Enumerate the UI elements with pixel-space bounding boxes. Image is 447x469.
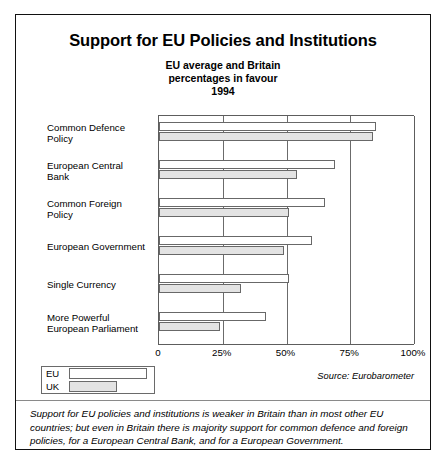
gridline-100	[414, 116, 415, 344]
bar-eu	[159, 236, 312, 245]
subtitle-line-3: 1994	[16, 85, 430, 98]
legend: EU UK	[41, 366, 155, 394]
category-label-line: Bank	[47, 171, 155, 183]
category-label-line: Policy	[47, 133, 155, 145]
caption-divider	[16, 400, 430, 401]
bar-group	[159, 309, 414, 336]
bar-eu	[159, 274, 289, 283]
bar-group	[159, 119, 414, 146]
legend-label-eu: EU	[46, 367, 59, 380]
bar-uk	[159, 208, 289, 217]
xtick-label-75: 75%	[329, 347, 369, 358]
category-label-line: Policy	[47, 209, 155, 221]
category-label-european-central-bank: European CentralBank	[47, 160, 155, 183]
bar-uk	[159, 246, 284, 255]
category-label-line: European Government	[47, 241, 155, 253]
category-label-line: European Central	[47, 160, 155, 172]
legend-swatch-uk	[69, 381, 117, 392]
chart-subtitle: EU average and Britain percentages in fa…	[16, 59, 430, 98]
category-label-common-defence-policy: Common DefencePolicy	[47, 122, 155, 145]
bar-uk	[159, 322, 220, 331]
xtick-label-0: 0	[138, 347, 178, 358]
plot-area	[158, 115, 414, 345]
bar-eu	[159, 122, 376, 131]
source-note: Source: Eurobarometer	[317, 371, 414, 381]
category-label-single-currency: Single Currency	[47, 279, 155, 291]
xtick-label-100: 100%	[393, 347, 433, 358]
chart-title: Support for EU Policies and Institutions	[16, 31, 430, 50]
bar-group	[159, 157, 414, 184]
category-label-line: More Powerful	[47, 312, 155, 324]
bar-eu	[159, 312, 266, 321]
legend-label-uk: UK	[46, 380, 59, 393]
category-label-line: Common Defence	[47, 122, 155, 134]
bar-group	[159, 195, 414, 222]
bar-eu	[159, 198, 325, 207]
figure-caption: Support for EU policies and institutions…	[30, 407, 417, 448]
category-label-more-powerful-european-parliament: More PowerfulEuropean Parliament	[47, 312, 155, 335]
legend-swatch-eu	[69, 368, 147, 379]
category-label-line: Common Foreign	[47, 198, 155, 210]
legend-item-uk: UK	[42, 380, 154, 393]
bar-group	[159, 233, 414, 260]
figure-panel: Support for EU Policies and Institutions…	[15, 14, 431, 450]
bar-uk	[159, 170, 297, 179]
bar-eu	[159, 160, 335, 169]
category-label-common-foreign-policy: Common ForeignPolicy	[47, 198, 155, 221]
category-label-line: European Parliament	[47, 323, 155, 335]
bar-uk	[159, 284, 241, 293]
xtick-label-50: 50%	[266, 347, 306, 358]
xtick-label-25: 25%	[202, 347, 242, 358]
legend-item-eu: EU	[42, 367, 154, 380]
category-label-european-government: European Government	[47, 241, 155, 253]
bar-uk	[159, 132, 373, 141]
category-label-line: Single Currency	[47, 279, 155, 291]
bar-group	[159, 271, 414, 298]
subtitle-line-1: EU average and Britain	[16, 59, 430, 72]
subtitle-line-2: percentages in favour	[16, 72, 430, 85]
